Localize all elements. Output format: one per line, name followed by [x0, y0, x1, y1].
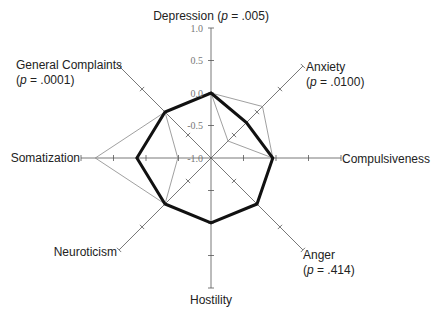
tick-label-1.0: 1.0 — [191, 23, 204, 34]
radar-chart: 1.0 0.5 0.0 -0.5 -1.0 Depression (p = .0… — [0, 0, 433, 318]
axis-label-hostility: Hostility — [190, 293, 232, 307]
axis-label-anxiety: Anxiety — [306, 60, 345, 74]
axis-label-somatization: Somatization — [11, 151, 80, 165]
tick-label-0.5: 0.5 — [191, 55, 204, 66]
tick-label-minus-1.0: -1.0 — [187, 153, 203, 164]
axis-label-general-complaints-p: (p = .0001) — [16, 73, 74, 87]
axis-label-compulsiveness: Compulsiveness — [342, 152, 430, 166]
axis-label-anger-p: (p = .414) — [303, 263, 355, 277]
axis-label-general-complaints: General Complaints — [16, 58, 122, 72]
axis-label-anger: Anger — [303, 248, 335, 262]
tick-label-minus-0.5: -0.5 — [187, 120, 203, 131]
tick-label-0.0: 0.0 — [191, 88, 204, 99]
axis-label-depression: Depression (p = .005) — [153, 9, 269, 23]
axis-label-neuroticism: Neuroticism — [54, 245, 117, 259]
axis-label-anxiety-p: (p = .0100) — [306, 75, 364, 89]
